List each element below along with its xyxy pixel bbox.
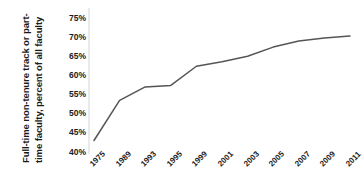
y-tick-label: 75% [52, 14, 86, 23]
x-axis-tick-labels: 1975198919931995199920012003200520072009… [88, 156, 358, 196]
y-tick-label: 40% [52, 148, 86, 157]
data-series-line [94, 36, 350, 141]
y-axis-title-line-2: time faculty, percent of all faculty [33, 17, 44, 163]
y-tick-label: 70% [52, 33, 86, 42]
plot-svg [88, 8, 352, 156]
y-tick-label: 65% [52, 52, 86, 61]
y-tick-label: 55% [52, 90, 86, 99]
plot-area [88, 8, 352, 156]
y-axis-title-line-1: Full-time non-tenure track or part- [20, 13, 31, 163]
y-axis-tick-labels: 40%45%50%55%60%65%70%75% [52, 0, 86, 170]
y-tick-label: 50% [52, 109, 86, 118]
y-tick-label: 45% [52, 128, 86, 137]
y-tick-label: 60% [52, 71, 86, 80]
y-axis-title: Full-time non-tenure track or part- time… [0, 0, 56, 170]
